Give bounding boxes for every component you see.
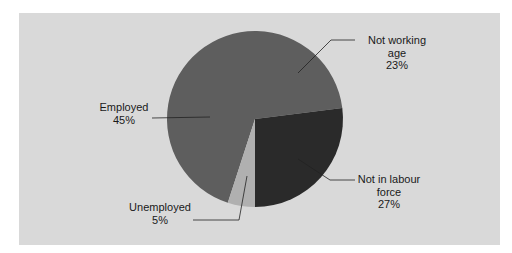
label-not-in-labour-force: Not in labour force 27% xyxy=(349,173,429,211)
label-not-working-age: Not working age 23% xyxy=(357,34,437,72)
label-employed: Employed 45% xyxy=(92,101,156,126)
pie-slice-not-in-labour-force xyxy=(255,108,343,207)
label-unemployed: Unemployed 5% xyxy=(124,201,196,226)
